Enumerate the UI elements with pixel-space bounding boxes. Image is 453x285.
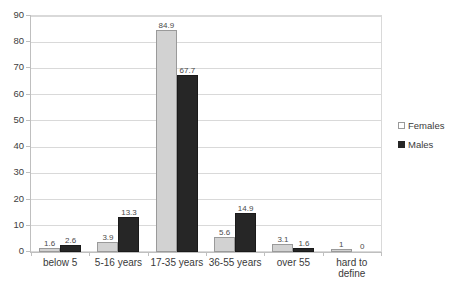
bar-slot: 3.1 [272, 16, 293, 252]
bar-value-label: 5.6 [219, 229, 230, 237]
bar-males[interactable]: 2.6 [60, 245, 81, 252]
bar-value-label: 1 [339, 241, 343, 249]
legend-item-males[interactable]: Males [398, 140, 444, 150]
bar-value-label: 1.6 [44, 240, 55, 248]
y-axis-tick-mark [26, 172, 30, 173]
legend-item-females[interactable]: Females [398, 121, 444, 131]
x-axis-category-label: over 55 [264, 257, 322, 279]
bar-females[interactable]: 1 [331, 249, 352, 252]
bar-males[interactable]: 1.6 [293, 248, 314, 252]
bar-males[interactable]: 67.7 [177, 75, 198, 252]
filled-square-marker [398, 141, 405, 148]
bar-females[interactable]: 5.6 [214, 237, 235, 252]
bar-females[interactable]: 1.6 [39, 248, 60, 252]
x-axis-tick-mark [264, 252, 265, 256]
y-axis-tick-label: 10 [0, 220, 24, 230]
x-axis-tick-mark [206, 252, 207, 256]
bar-value-label: 3.1 [277, 236, 288, 244]
y-axis-tick-mark [26, 199, 30, 200]
x-axis-category-label: 17-35 years [148, 257, 206, 279]
y-axis-tick-label: 30 [0, 167, 24, 177]
x-axis-category-label: below 5 [31, 257, 89, 279]
y-axis-tick-mark [26, 94, 30, 95]
x-axis-category-label: hard to define [323, 257, 381, 279]
x-axis-tick-mark [323, 252, 324, 256]
y-axis-tick-mark [26, 41, 30, 42]
bar-slot: 67.7 [177, 16, 198, 252]
bar-group: 3.11.6 [264, 16, 322, 252]
y-axis-tick-mark [26, 225, 30, 226]
bar-slot: 84.9 [156, 16, 177, 252]
bar-group: 10 [323, 16, 381, 252]
bar-slot: 5.6 [214, 16, 235, 252]
bar-value-label: 84.9 [159, 22, 175, 30]
bar-value-label: 13.3 [121, 209, 137, 217]
bar-slot: 14.9 [235, 16, 256, 252]
bar-slot: 13.3 [118, 16, 139, 252]
legend-label: Males [408, 140, 433, 150]
x-axis-tick-mark [381, 252, 382, 256]
y-axis-tick-label: 0 [0, 246, 24, 256]
bar-slot: 1.6 [39, 16, 60, 252]
y-axis-tick-mark [26, 120, 30, 121]
x-axis-category-label: 5-16 years [89, 257, 147, 279]
y-axis-tick-label: 50 [0, 115, 24, 125]
x-axis-tick-mark [31, 252, 32, 256]
bar-value-label: 0 [360, 243, 364, 251]
y-axis-tick-label: 80 [0, 36, 24, 46]
y-axis-tick-label: 90 [0, 10, 24, 20]
chart-legend: FemalesMales [398, 121, 444, 149]
y-axis-tick-mark [26, 15, 30, 16]
legend-label: Females [408, 121, 444, 131]
bar-value-label: 3.9 [102, 234, 113, 242]
y-axis-tick-label: 60 [0, 89, 24, 99]
y-axis-tick-label: 20 [0, 194, 24, 204]
x-axis-category-label: 36-55 years [206, 257, 264, 279]
y-axis-tick-label: 70 [0, 62, 24, 72]
bar-value-label: 2.6 [65, 237, 76, 245]
x-axis-tick-mark [89, 252, 90, 256]
bar-group: 1.62.6 [31, 16, 89, 252]
bar-females[interactable]: 3.9 [97, 242, 118, 252]
y-axis-tick-mark [26, 146, 30, 147]
x-axis-labels: below 55-16 years17-35 years36-55 yearso… [31, 257, 381, 279]
x-axis-tick-mark [148, 252, 149, 256]
bar-value-label: 1.6 [298, 240, 309, 248]
bar-groups: 1.62.63.913.384.967.75.614.93.11.610 [31, 16, 381, 252]
bar-group: 84.967.7 [148, 16, 206, 252]
open-square-marker [398, 122, 405, 129]
bar-group: 5.614.9 [206, 16, 264, 252]
y-axis-tick-mark [26, 251, 30, 252]
bar-slot: 0 [352, 16, 373, 252]
bar-males[interactable]: 13.3 [118, 217, 139, 252]
bar-females[interactable]: 84.9 [156, 30, 177, 252]
y-axis-tick-mark [26, 67, 30, 68]
bar-males[interactable]: 14.9 [235, 213, 256, 252]
bar-value-label: 14.9 [238, 205, 254, 213]
bar-slot: 1.6 [293, 16, 314, 252]
bar-value-label: 67.7 [180, 67, 196, 75]
bar-slot: 2.6 [60, 16, 81, 252]
bar-females[interactable]: 3.1 [272, 244, 293, 252]
bar-slot: 3.9 [97, 16, 118, 252]
bar-slot: 1 [331, 16, 352, 252]
bar-chart: 9080706050403020100 1.62.63.913.384.967.… [0, 0, 453, 285]
bar-group: 3.913.3 [89, 16, 147, 252]
y-axis-tick-label: 40 [0, 141, 24, 151]
